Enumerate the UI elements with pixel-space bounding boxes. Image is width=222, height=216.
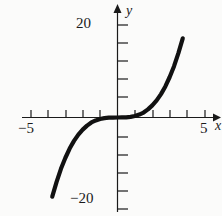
y-axis-arrow-icon <box>114 4 122 13</box>
y-axis <box>114 4 129 212</box>
y-axis-tick-label-neg20: −20 <box>70 190 93 207</box>
x-axis-tick-label-5: 5 <box>200 120 208 137</box>
x-axis-tick-label-neg5: −5 <box>18 120 34 137</box>
y-axis-label: y <box>126 3 132 19</box>
x-axis-label: x <box>215 118 221 134</box>
cubic-function-graph: 20 −20 −5 5 y x <box>0 0 222 216</box>
plot-area <box>0 0 222 216</box>
y-axis-tick-label-20: 20 <box>76 15 91 32</box>
